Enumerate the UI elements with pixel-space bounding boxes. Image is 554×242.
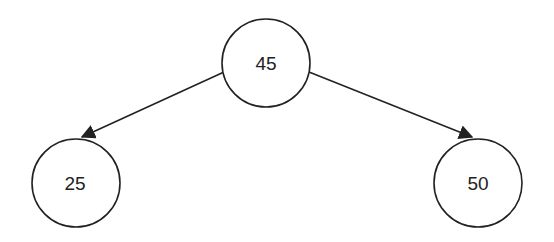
edge-45-to-25 xyxy=(82,72,224,137)
node-root-label: 45 xyxy=(255,53,276,74)
node-root: 45 xyxy=(222,19,310,107)
node-left-label: 25 xyxy=(64,173,85,194)
node-right: 50 xyxy=(434,139,522,227)
edge-45-to-50 xyxy=(309,72,472,137)
tree-diagram: 45 25 50 xyxy=(0,0,554,242)
node-left: 25 xyxy=(32,139,120,227)
node-right-label: 50 xyxy=(467,173,488,194)
